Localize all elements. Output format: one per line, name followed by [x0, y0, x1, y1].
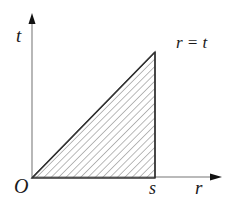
- r-axis-label: r: [195, 177, 203, 198]
- region-diagram: t r = t O s r: [0, 0, 231, 204]
- origin-label: O: [14, 175, 28, 197]
- s-tick-label: s: [149, 178, 156, 198]
- r-axis-arrow-icon: [210, 174, 222, 181]
- t-axis-label: t: [16, 25, 22, 46]
- t-axis: [29, 13, 36, 178]
- t-axis-arrow-icon: [29, 13, 36, 24]
- boundary-line-label: r = t: [176, 33, 209, 52]
